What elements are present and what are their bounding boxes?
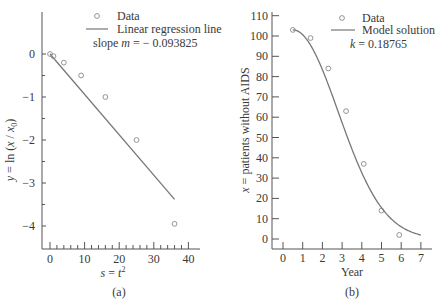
- chart-b-x-axis-label: Year: [341, 265, 363, 279]
- x-tick-label: 5: [379, 251, 385, 265]
- x-tick-label: 40: [182, 252, 194, 266]
- chart-b: 010203040506070809010011001234567 Data M…: [238, 9, 435, 299]
- chart-a-axes: 0−1−2−3−4010203040: [22, 12, 200, 266]
- data-point: [326, 66, 331, 71]
- chart-b-panel-label: (b): [345, 285, 359, 299]
- x-tick-label: 0: [47, 252, 53, 266]
- legend-line-label: Model solution: [362, 23, 435, 37]
- x-tick-label: 0: [280, 251, 286, 265]
- x-tick-label: 20: [113, 252, 125, 266]
- x-tick-label: 10: [79, 252, 91, 266]
- y-tick-label: 10: [256, 212, 268, 226]
- slope-annotation: slope m = − 0.093825: [93, 36, 198, 50]
- chart-a-x-axis-label: s = t2: [101, 265, 126, 280]
- data-point: [172, 221, 177, 226]
- data-point: [79, 73, 84, 78]
- x-tick-label: 6: [398, 251, 404, 265]
- y-tick-label: 0: [262, 232, 268, 246]
- x-tick-label: 1: [300, 251, 306, 265]
- data-point: [103, 95, 108, 100]
- y-tick-label: 80: [256, 70, 268, 84]
- y-tick-label: 40: [256, 151, 268, 165]
- regression-line: [50, 54, 175, 199]
- model-curve: [293, 30, 421, 235]
- y-tick-label: 30: [256, 171, 268, 185]
- y-tick-label: 70: [256, 90, 268, 104]
- data-point: [134, 138, 139, 143]
- k-annotation: k = 0.18765: [350, 37, 407, 51]
- y-tick-label: −2: [22, 133, 35, 147]
- y-tick-label: 110: [250, 9, 268, 23]
- chart-a: 0−1−2−3−4010203040 Data Linear regressio…: [3, 9, 222, 299]
- data-point: [344, 109, 349, 114]
- legend-marker-icon: [340, 16, 345, 21]
- figure: 0−1−2−3−4010203040 Data Linear regressio…: [0, 0, 437, 303]
- x-tick-label: 2: [319, 251, 325, 265]
- y-tick-label: 90: [256, 49, 268, 63]
- data-point: [308, 36, 313, 41]
- legend-line-label: Linear regression line: [117, 22, 222, 36]
- y-tick-label: 100: [250, 29, 268, 43]
- chart-a-y-axis-label: y = ln (x / x0): [3, 119, 19, 182]
- chart-b-y-axis-label: x = patients without AIDS: [238, 67, 252, 193]
- legend-data-label: Data: [117, 9, 140, 23]
- chart-a-panel-label: (a): [112, 285, 125, 299]
- data-point: [361, 161, 366, 166]
- data-point: [61, 60, 66, 65]
- x-tick-label: 4: [359, 251, 365, 265]
- x-tick-label: 3: [339, 251, 345, 265]
- y-tick-label: 20: [256, 191, 268, 205]
- chart-a-plot-area: [48, 52, 177, 227]
- chart-b-legend: Data Model solution k = 0.18765: [331, 11, 435, 51]
- x-tick-label: 7: [418, 251, 424, 265]
- x-tick-label: 30: [148, 252, 160, 266]
- y-tick-label: −4: [22, 219, 35, 233]
- chart-a-legend: Data Linear regression line slope m = − …: [86, 9, 222, 50]
- data-point: [397, 233, 402, 238]
- chart-b-plot-area: [290, 28, 420, 238]
- y-tick-label: −1: [22, 90, 35, 104]
- y-tick-label: 50: [256, 131, 268, 145]
- y-tick-label: 60: [256, 110, 268, 124]
- legend-marker-icon: [95, 14, 100, 19]
- y-tick-label: −3: [22, 176, 35, 190]
- y-tick-label: 0: [29, 47, 35, 61]
